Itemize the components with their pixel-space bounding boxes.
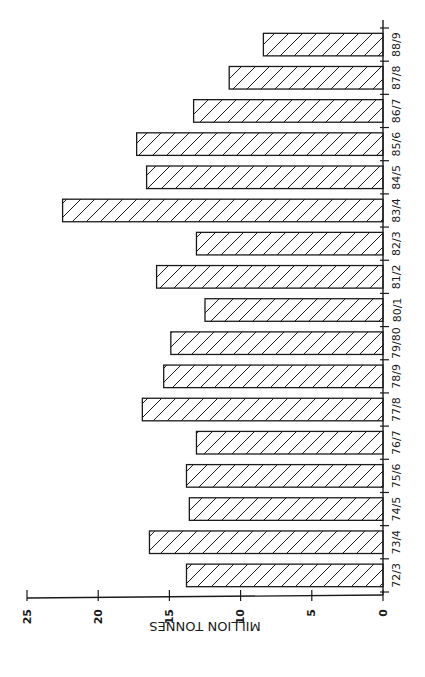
bars — [63, 33, 383, 586]
tick-label: 0 — [377, 609, 390, 617]
bar — [189, 498, 383, 521]
axis-title: MILLION TONNES — [149, 619, 261, 634]
bar — [147, 166, 383, 189]
category-label: 73/4 — [391, 530, 404, 555]
category-label: 84/5 — [391, 165, 404, 190]
tick-label: 20 — [92, 609, 105, 625]
bar — [63, 199, 383, 222]
bar — [186, 564, 383, 587]
bar — [142, 398, 383, 421]
category-label: 72/3 — [391, 563, 404, 588]
bar — [196, 431, 383, 454]
category-label: 75/6 — [391, 464, 404, 489]
bar — [137, 133, 383, 156]
tick-label: 5 — [305, 609, 318, 617]
category-label: 76/7 — [391, 430, 404, 455]
category-label: 85/6 — [391, 132, 404, 157]
bar — [263, 33, 383, 56]
category-label: 78/9 — [391, 364, 404, 389]
category-label: 81/2 — [391, 264, 404, 289]
category-label: 74/5 — [391, 497, 404, 522]
bar — [229, 66, 383, 89]
bar — [186, 465, 383, 488]
category-label: 79/80 — [391, 327, 404, 359]
bar — [149, 531, 383, 554]
category-label: 88/9 — [391, 32, 404, 57]
bar — [194, 100, 383, 123]
category-label: 87/8 — [391, 65, 404, 90]
bar — [171, 332, 383, 355]
bar-chart: 0510152025 72/373/474/575/676/777/878/97… — [0, 0, 425, 677]
bar — [196, 232, 383, 255]
category-label: 83/4 — [391, 198, 404, 223]
category-axis: 72/373/474/575/676/777/878/979/8080/181/… — [380, 20, 404, 595]
category-label: 82/3 — [391, 231, 404, 256]
tick-label: 25 — [21, 609, 34, 624]
category-label: 80/1 — [391, 298, 404, 323]
bar — [164, 365, 383, 388]
bar — [157, 266, 383, 289]
bar — [205, 299, 383, 322]
category-label: 86/7 — [391, 99, 404, 124]
category-label: 77/8 — [391, 397, 404, 422]
